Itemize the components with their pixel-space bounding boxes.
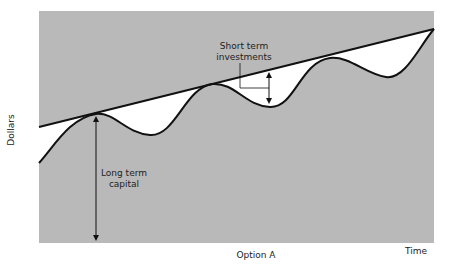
short-term-label-line2: investments [212, 52, 276, 63]
short-term-label-line1: Short term [212, 41, 276, 52]
short-term-label: Short term investments [212, 41, 276, 63]
long-term-label: Long term capital [100, 168, 148, 190]
y-axis-label: Dollars [6, 114, 16, 145]
diagram-title: Option A [226, 250, 286, 261]
long-term-label-line1: Long term [100, 168, 148, 179]
x-axis-label: Time [398, 246, 434, 257]
long-term-label-line2: capital [100, 179, 148, 190]
